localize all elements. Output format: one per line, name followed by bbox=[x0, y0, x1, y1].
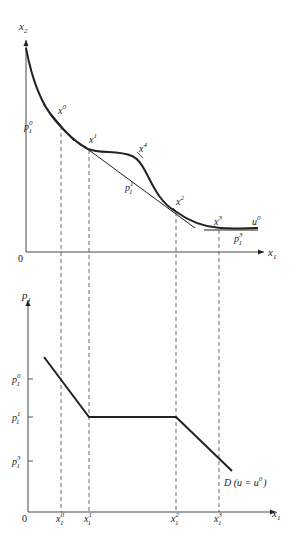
demand-curve bbox=[44, 357, 232, 471]
price-p10-label: p01 bbox=[23, 119, 33, 135]
price-p11-label: p11 bbox=[124, 180, 133, 196]
point-x0-label: x0 bbox=[57, 103, 66, 116]
budget-line-p11 bbox=[78, 142, 195, 228]
point-x3-label: x3 bbox=[213, 214, 222, 227]
dashed-guides bbox=[61, 126, 219, 512]
bottom-x-axis-label: x1 bbox=[271, 507, 280, 522]
point-x1-label: x1 bbox=[88, 132, 97, 145]
tick-label-p10: p01 bbox=[11, 372, 21, 388]
tick-label-x13: x31 bbox=[213, 511, 222, 527]
point-x2-label: x2 bbox=[175, 194, 184, 207]
top-x-axis-label: x1 bbox=[267, 246, 276, 261]
tick-label-x10: x01 bbox=[55, 511, 64, 527]
price-p13-label: p31 bbox=[233, 231, 243, 247]
diagram-canvas: x2 0 x1 x0 x1 x4 x2 x3 u0 p01 p11 p31 bbox=[0, 0, 294, 547]
curve-u0-label: u0 bbox=[252, 214, 261, 227]
bottom-panel: p1 0 x1 p01 p11 p31 x01 x11 x21 x31 D (u… bbox=[11, 289, 280, 527]
tick-label-x12: x21 bbox=[170, 511, 179, 527]
demand-curve-label: D (u = u0) bbox=[223, 475, 267, 489]
tick-label-x11: x11 bbox=[83, 511, 91, 527]
bottom-y-axis-label: p1 bbox=[21, 289, 31, 304]
indifference-curve-u0 bbox=[26, 48, 258, 228]
tick-label-p11: p11 bbox=[11, 410, 20, 426]
point-x4-label: x4 bbox=[138, 141, 147, 154]
tick-label-p13: p31 bbox=[11, 454, 21, 470]
top-origin-label: 0 bbox=[18, 253, 23, 264]
top-panel: x2 0 x1 x0 x1 x4 x2 x3 u0 p01 p11 p31 bbox=[18, 20, 276, 264]
top-y-axis-label: x2 bbox=[18, 20, 28, 35]
bottom-origin-label: 0 bbox=[22, 513, 27, 524]
